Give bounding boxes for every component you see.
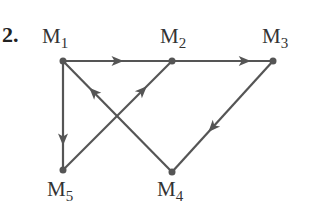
node-M5: [60, 167, 67, 174]
problem-number: 2.: [2, 22, 19, 47]
node-M3: [270, 58, 277, 65]
node-label-M1: M1: [42, 24, 68, 51]
edge-M3-M4: [172, 61, 273, 172]
node-M2: [169, 58, 176, 65]
node-label-M3: M3: [262, 24, 288, 51]
node-label-M4: M4: [157, 177, 184, 204]
node-M1: [60, 58, 67, 65]
edges: [58, 56, 273, 172]
node-label-M2: M2: [160, 24, 186, 51]
node-M4: [169, 169, 176, 176]
directed-graph: 2. M1M2M3M4M5: [0, 0, 311, 212]
nodes: M1M2M3M4M5: [42, 24, 288, 204]
node-label-M5: M5: [47, 177, 73, 204]
